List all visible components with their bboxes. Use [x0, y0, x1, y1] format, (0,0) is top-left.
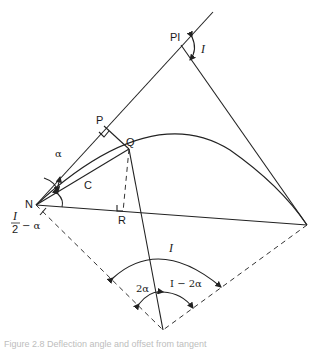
- radius-n-dashed: [36, 205, 163, 330]
- central-angle-i-arc: [113, 259, 221, 287]
- angle-i-minus-two-alpha-arc: [163, 292, 193, 308]
- chord-c-line: [36, 149, 129, 205]
- half-i-num-label: I: [12, 209, 18, 223]
- right-angle-mark-p: [99, 131, 109, 137]
- q-label: Q: [126, 136, 135, 148]
- angle-half-i-minus-alpha-arc: [58, 194, 63, 207]
- right-angle-mark-r: [117, 205, 123, 211]
- figure-caption: Figure 2.8 Deflection angle and offset f…: [4, 339, 207, 349]
- back-tangent-line: [36, 12, 213, 205]
- i-minus-two-alpha-label: I − 2α: [170, 278, 202, 289]
- alpha-label: α: [55, 148, 62, 159]
- p-label: P: [96, 114, 103, 126]
- i-label-pi: I: [200, 42, 206, 56]
- n-label: N: [25, 198, 33, 210]
- half-i-den-label: 2: [12, 223, 18, 235]
- pi-label: PI: [170, 31, 180, 43]
- long-chord-line: [36, 205, 307, 225]
- circular-curve-diagram: PI I P Q N C R α I 2 − α I 2α I − 2α Fig…: [0, 0, 321, 349]
- c-label: C: [84, 179, 92, 191]
- minus-alpha-label: − α: [22, 220, 41, 231]
- two-alpha-label: 2α: [136, 283, 149, 294]
- angle-alpha-arc: [44, 178, 58, 192]
- angle-i-arc-pi: [190, 37, 195, 60]
- central-i-label: I: [168, 241, 174, 255]
- circular-curve-arc: [36, 134, 307, 225]
- r-label: R: [118, 214, 126, 226]
- radius-q-line: [129, 149, 163, 330]
- offset-qr-dashed: [123, 149, 129, 212]
- forward-tangent-line: [181, 45, 307, 225]
